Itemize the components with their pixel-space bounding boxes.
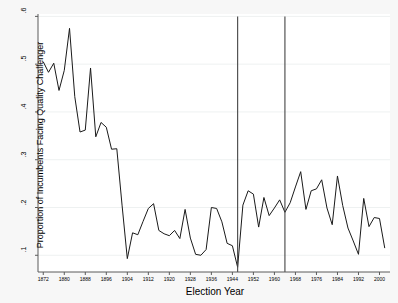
y-tick-label: .3: [20, 151, 27, 165]
y-tick-label: .2: [20, 199, 27, 213]
line-chart-canvas: [0, 0, 398, 303]
y-tick-label: .6: [20, 8, 27, 22]
y-tick-label: .5: [20, 56, 27, 70]
x-axis-title: Election Year: [40, 286, 390, 297]
plot-background: [38, 14, 390, 272]
x-tick-label: 2000: [367, 276, 391, 282]
y-tick-label: .4: [20, 103, 27, 117]
y-axis-title: Proportion of Incumbents Facing Quality …: [35, 20, 45, 270]
chart-figure: Proportion of Incumbents Facing Quality …: [0, 0, 398, 303]
y-tick-label: .1: [20, 247, 27, 261]
